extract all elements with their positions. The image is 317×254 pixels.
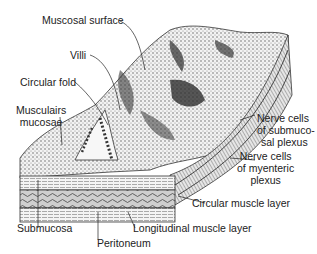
label-submucosa: Submucosa (17, 222, 72, 234)
longitudinal-muscle-layer (20, 208, 175, 222)
label-villi: Villi (70, 49, 86, 61)
label-longitudinal-muscle-layer: Longitudinal muscle layer (133, 222, 251, 234)
label-mucosal-surface: Muscosal surface (42, 14, 124, 26)
circular-muscle-layer (20, 190, 175, 208)
label-peritoneum: Peritoneum (97, 237, 151, 249)
label-myenteric-plexus: Nerve cells of myenteric plexus (237, 150, 294, 186)
label-circular-muscle-layer: Circular muscle layer (192, 197, 290, 209)
label-circular-fold: Circular fold (20, 76, 76, 88)
intestine-diagram: Muscosal surface Villi Circular fold Mus… (0, 0, 317, 254)
label-muscularis-mucosae: Musculairs mucosae (16, 104, 66, 128)
label-submucosal-plexus: Nerve cells of submuco- sal plexus (257, 112, 315, 148)
submucosa-layer (20, 176, 175, 190)
